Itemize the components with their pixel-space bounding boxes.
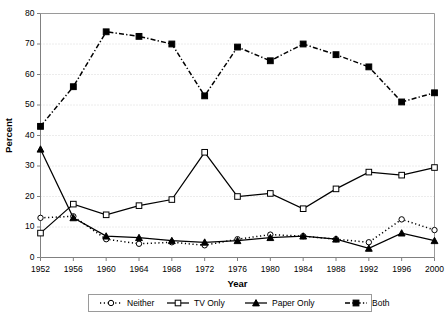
x-axis-title: Year [227, 278, 247, 289]
x-tick-label: 1956 [64, 264, 83, 274]
y-axis: 01020304050607080 [25, 8, 40, 262]
chart-legend: NeitherTV OnlyPaper OnlyBoth [89, 295, 390, 312]
data-point-open-square [300, 206, 306, 212]
data-point-open-square [268, 191, 274, 197]
legend-label: Both [372, 298, 390, 308]
x-tick-label: 1960 [97, 264, 116, 274]
line-chart: 0102030405060708019521956196019641968197… [0, 0, 448, 322]
data-point-open-circle [38, 215, 43, 220]
data-point-open-square [235, 194, 241, 200]
data-point-filled-triangle [398, 230, 405, 236]
y-tick-label: 10 [25, 221, 35, 231]
data-point-filled-square [353, 300, 359, 306]
y-tick-label: 50 [25, 99, 35, 109]
data-point-filled-square [333, 52, 339, 58]
data-point-open-circle [399, 217, 404, 222]
series-line [41, 152, 435, 233]
data-point-filled-square [103, 29, 109, 35]
data-point-open-square [366, 169, 372, 175]
x-tick-label: 1996 [392, 264, 411, 274]
x-tick-label: 1992 [359, 264, 378, 274]
x-tick-label: 1976 [228, 264, 247, 274]
legend-label: Neither [127, 298, 155, 308]
x-tick-label: 2000 [425, 264, 444, 274]
legend-label: TV Only [194, 298, 225, 308]
y-tick-label: 20 [25, 191, 35, 201]
data-point-filled-square [169, 41, 175, 47]
chart-container: 0102030405060708019521956196019641968197… [0, 0, 448, 322]
data-point-filled-square [267, 58, 273, 64]
y-tick-label: 60 [25, 69, 35, 79]
y-tick-label: 40 [25, 130, 35, 140]
x-axis: 1952195619601964196819721976198019841988… [31, 258, 444, 274]
data-point-open-square [38, 230, 44, 236]
data-point-open-square [399, 172, 405, 178]
y-tick-label: 30 [25, 160, 35, 170]
y-tick-label: 0 [30, 252, 35, 262]
x-tick-label: 1988 [327, 264, 346, 274]
data-point-open-square [333, 186, 339, 192]
x-tick-label: 1984 [294, 264, 313, 274]
data-point-open-square [169, 197, 175, 203]
y-tick-label: 70 [25, 38, 35, 48]
data-point-filled-square [38, 123, 44, 129]
data-point-filled-square [235, 44, 241, 50]
data-point-open-circle [136, 241, 141, 246]
data-point-filled-square [399, 99, 405, 105]
series-tv-only [38, 149, 438, 235]
data-point-open-square [432, 165, 438, 171]
data-point-filled-square [136, 33, 142, 39]
y-tick-label: 80 [25, 8, 35, 18]
data-point-filled-square [300, 41, 306, 47]
data-point-open-square [202, 149, 208, 155]
data-point-open-square [175, 300, 181, 306]
data-point-open-square [136, 203, 142, 209]
data-point-filled-square [202, 93, 208, 99]
data-point-open-circle [108, 300, 113, 305]
data-point-filled-square [366, 64, 372, 70]
x-tick-label: 1952 [31, 264, 50, 274]
data-point-open-circle [432, 227, 437, 232]
data-point-open-square [71, 201, 77, 207]
legend-label: Paper Only [272, 298, 315, 308]
data-point-open-square [103, 212, 109, 218]
data-point-filled-square [70, 84, 76, 90]
x-tick-label: 1972 [195, 264, 214, 274]
x-tick-label: 1968 [162, 264, 181, 274]
y-axis-title: Percent [3, 117, 14, 153]
x-tick-label: 1980 [261, 264, 280, 274]
data-point-filled-square [432, 90, 438, 96]
x-tick-label: 1964 [130, 264, 149, 274]
data-point-filled-triangle [37, 146, 44, 152]
